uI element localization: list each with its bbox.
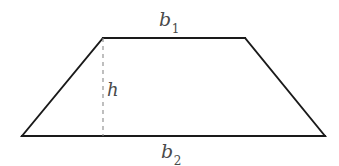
trapezoid-shape [22, 38, 325, 136]
bottom-base-label: b2 [161, 142, 181, 164]
bottom-base-label-base: b [161, 140, 173, 162]
height-label: h [107, 81, 119, 99]
height-label-base: h [107, 79, 119, 100]
top-base-label: b1 [159, 10, 179, 32]
bottom-base-label-subscript: 2 [174, 154, 182, 166]
top-base-label-base: b [159, 8, 171, 30]
top-base-label-subscript: 1 [172, 22, 180, 36]
trapezoid-figure: b1 b2 h [0, 0, 339, 166]
